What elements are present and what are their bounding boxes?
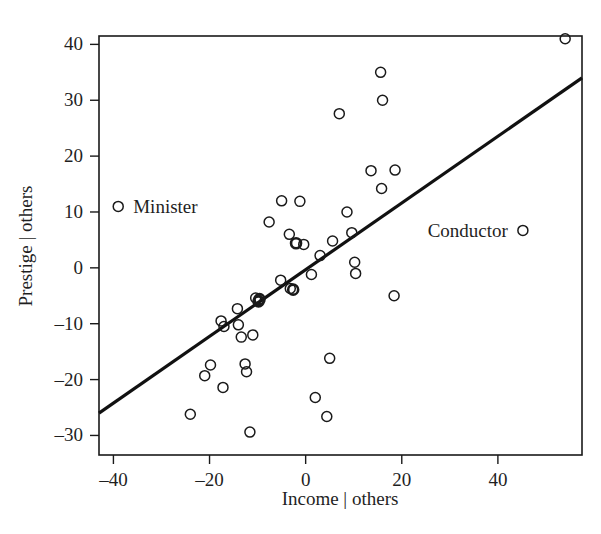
x-tick-label: –20 [194,469,224,490]
data-point [378,95,388,105]
data-point [245,427,255,437]
data-point [334,109,344,119]
data-point [113,201,123,211]
y-axis-tick-labels: –30–20–10010203040 [54,33,84,445]
data-point [236,332,246,342]
y-tick-label: –20 [54,369,84,390]
data-point [376,67,386,77]
data-point [310,392,320,402]
data-point [350,257,360,267]
data-point [342,207,352,217]
data-point [218,382,228,392]
x-axis-ticks [113,455,497,464]
data-point [185,409,195,419]
data-point [328,236,338,246]
x-tick-label: 20 [392,469,411,490]
y-tick-label: 30 [64,89,83,110]
x-tick-label: 40 [488,469,507,490]
data-point [200,371,210,381]
scatter-plot-figure: –40–2002040 –30–20–10010203040 MinisterC… [0,0,601,534]
chart-canvas: –40–2002040 –30–20–10010203040 MinisterC… [0,0,601,534]
point-annotation-label: Conductor [428,220,509,241]
data-point [206,360,216,370]
data-point [518,225,528,235]
y-tick-label: 20 [64,145,83,166]
y-tick-label: –10 [54,313,84,334]
y-tick-label: 10 [64,201,83,222]
y-tick-label: 0 [74,257,84,278]
point-annotations-group: MinisterConductor [133,196,508,241]
data-point [306,270,316,280]
data-point [322,411,332,421]
data-point [264,217,274,227]
x-tick-label: 0 [301,469,311,490]
data-point [232,304,242,314]
point-annotation-label: Minister [133,196,198,217]
data-point [325,353,335,363]
y-axis-title: Prestige | others [15,186,36,307]
x-axis-title: Income | others [282,488,399,509]
data-point [366,166,376,176]
data-point [295,196,305,206]
x-axis-tick-labels: –40–2002040 [98,469,507,490]
y-tick-label: –30 [54,424,84,445]
data-point [351,268,361,278]
y-tick-label: 40 [64,33,83,54]
data-point [284,229,294,239]
regression-line [99,78,582,413]
data-point [248,330,258,340]
y-axis-ticks [90,44,99,435]
data-point [390,165,400,175]
data-point [276,275,286,285]
data-point [389,291,399,301]
data-point [377,184,387,194]
regression-line-group [99,78,582,413]
x-tick-label: –40 [98,469,128,490]
data-point [277,196,287,206]
data-point [233,320,243,330]
